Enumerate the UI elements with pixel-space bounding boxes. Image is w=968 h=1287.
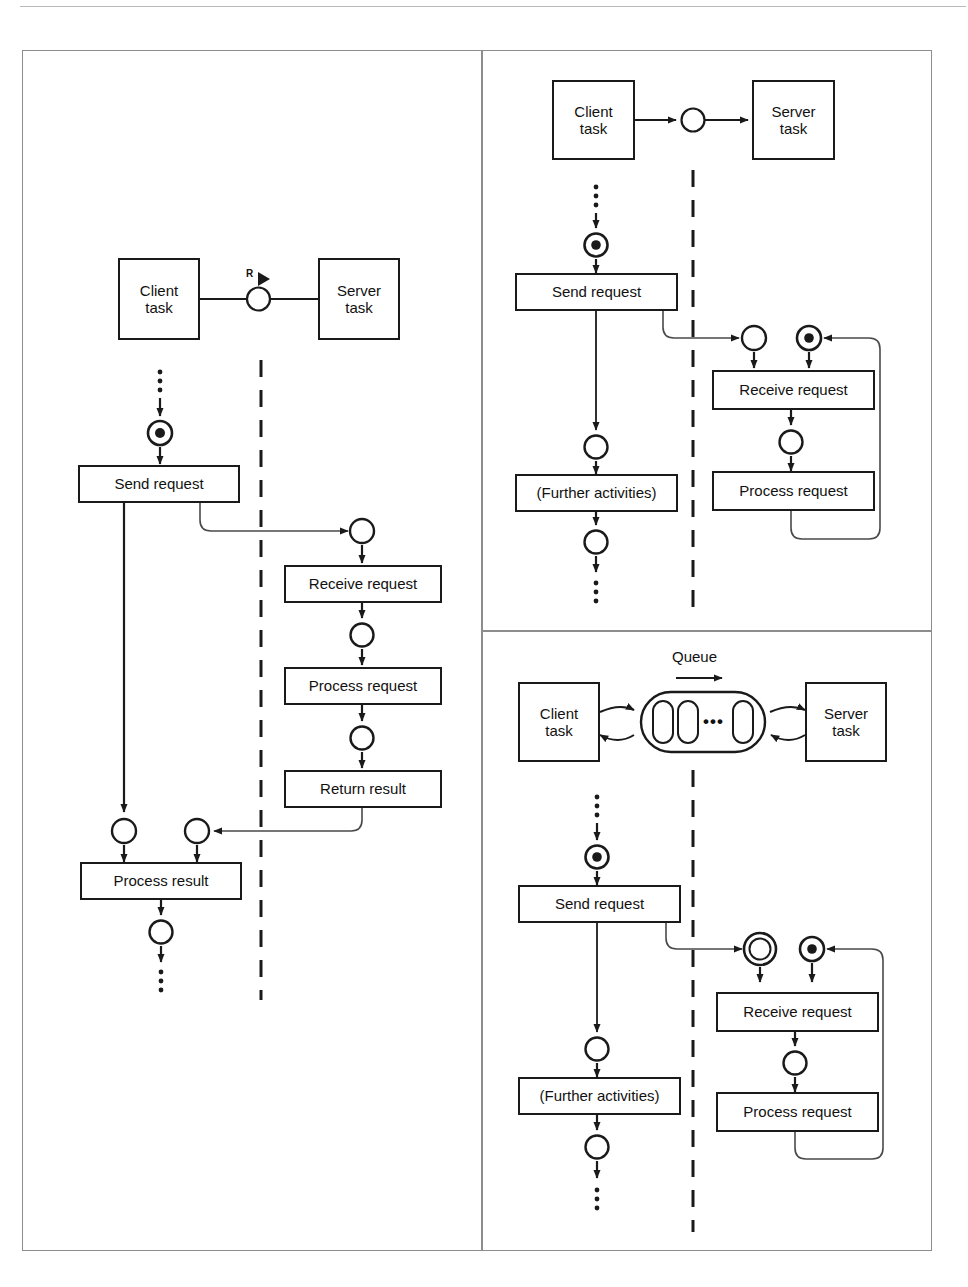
interface-letter-r: R xyxy=(246,268,253,279)
server-task-box-queued[interactable]: Servertask xyxy=(805,682,887,762)
activity-process-request-async[interactable]: Process request xyxy=(712,471,875,511)
client-task-box-queued[interactable]: Clienttask xyxy=(518,682,600,762)
place-server-receive xyxy=(350,519,374,543)
place-client-end xyxy=(150,921,173,944)
queue-slot xyxy=(653,701,673,743)
activity-receive-request-sync[interactable]: Receive request xyxy=(284,565,442,603)
place-message xyxy=(742,326,766,350)
place-client-2 xyxy=(585,531,608,554)
end-ellipsis-marks xyxy=(594,581,599,604)
place-client-main xyxy=(112,819,136,843)
queue-slot xyxy=(733,701,753,743)
queue-slots-ellipsis: ••• xyxy=(703,712,724,732)
queue-to-client-arrow xyxy=(600,735,634,740)
place-queue-inner xyxy=(750,939,771,960)
start-ellipsis-marks xyxy=(595,795,600,818)
start-ellipsis-marks xyxy=(594,185,599,208)
activity-further-activities-queued[interactable]: (Further activities) xyxy=(518,1077,681,1115)
activity-send-request-async[interactable]: Send request xyxy=(515,273,678,311)
place-client-1 xyxy=(586,1038,609,1061)
channel-place-icon xyxy=(682,109,705,132)
token-icon xyxy=(592,852,602,862)
server-to-queue-arrow xyxy=(771,735,805,740)
end-ellipsis-marks xyxy=(159,970,164,993)
server-task-label: Servertask xyxy=(337,282,381,317)
token-icon xyxy=(591,240,601,250)
server-task-label: Servertask xyxy=(824,705,868,740)
place-server-1 xyxy=(784,1052,807,1075)
start-ellipsis-marks xyxy=(158,370,163,393)
place-server-2 xyxy=(351,727,374,750)
panel-asynchronous-connectors xyxy=(585,109,881,611)
queue-to-server-arrow xyxy=(770,707,805,712)
place-client-1 xyxy=(585,436,608,459)
activity-return-result-sync[interactable]: Return result xyxy=(284,770,442,808)
activity-process-request-sync[interactable]: Process request xyxy=(284,667,442,705)
activity-further-activities-async[interactable]: (Further activities) xyxy=(515,474,678,512)
interface-triangle-icon xyxy=(258,272,270,286)
place-server-1 xyxy=(780,431,803,454)
token-icon xyxy=(807,944,817,954)
server-task-box-async[interactable]: Servertask xyxy=(752,80,835,160)
queue-slot xyxy=(678,701,698,743)
client-task-box-async[interactable]: Clienttask xyxy=(552,80,635,160)
server-task-box-sync[interactable]: Servertask xyxy=(318,258,400,340)
queue-label: Queue xyxy=(672,648,717,665)
interface-ball-icon xyxy=(247,288,270,311)
client-task-label: Clienttask xyxy=(574,103,612,138)
activity-process-result-sync[interactable]: Process result xyxy=(80,862,242,900)
end-ellipsis-marks xyxy=(595,1188,600,1211)
token-icon xyxy=(155,428,165,438)
client-task-label: Clienttask xyxy=(540,705,578,740)
activity-receive-request-async[interactable]: Receive request xyxy=(712,370,875,410)
place-client-return xyxy=(185,819,209,843)
activity-process-request-queued[interactable]: Process request xyxy=(716,1092,879,1132)
place-client-2 xyxy=(586,1136,609,1159)
client-to-queue-arrow xyxy=(600,707,634,712)
activity-send-request-queued[interactable]: Send request xyxy=(518,885,681,923)
activity-receive-request-queued[interactable]: Receive request xyxy=(716,992,879,1032)
server-task-label: Servertask xyxy=(771,103,815,138)
client-task-box-sync[interactable]: Clienttask xyxy=(118,258,200,340)
client-task-label: Clienttask xyxy=(140,282,178,317)
diagram-page: Clienttask Servertask R Send request Rec… xyxy=(0,0,968,1287)
token-icon xyxy=(804,333,814,343)
place-server-1 xyxy=(351,624,374,647)
activity-send-request-sync[interactable]: Send request xyxy=(78,465,240,503)
